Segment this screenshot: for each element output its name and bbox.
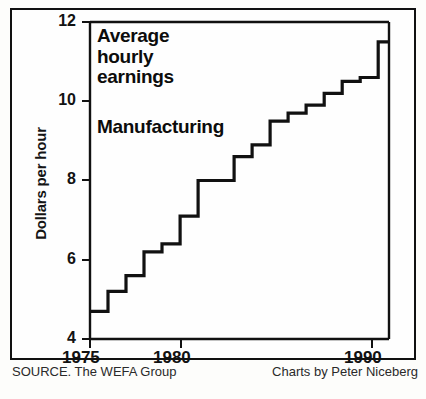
chart-subhead: Manufacturing xyxy=(97,116,224,138)
chart-footer: SOURCE. The WEFA Group Charts by Peter N… xyxy=(12,364,418,388)
chart-plot-region: Dollars per hour 12 10 8 6 4 1975 1980 1… xyxy=(0,0,426,365)
source-note: SOURCE. The WEFA Group xyxy=(12,364,176,379)
chart-headline-line-1: Average xyxy=(97,26,174,47)
y-tick-label-4: 4 xyxy=(46,329,76,347)
x-tick-marks xyxy=(90,339,372,348)
y-tick-label-12: 12 xyxy=(46,12,76,30)
y-tick-label-8: 8 xyxy=(46,170,76,188)
chart-headline-line-3: earnings xyxy=(97,67,174,88)
y-tick-label-6: 6 xyxy=(46,250,76,268)
credit-note: Charts by Peter Niceberg xyxy=(272,364,418,379)
chart-headline: Average hourly earnings xyxy=(97,26,174,88)
chart-headline-line-2: hourly xyxy=(97,47,174,68)
y-tick-label-10: 10 xyxy=(46,91,76,109)
chart-screenshot: Dollars per hour 12 10 8 6 4 1975 1980 1… xyxy=(0,0,426,399)
